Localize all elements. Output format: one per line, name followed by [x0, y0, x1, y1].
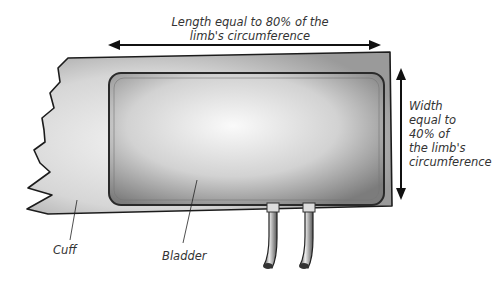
width-label-line5: circumference — [409, 155, 501, 169]
bladder-shape — [109, 73, 384, 205]
length-label-line1: Length equal to 80% of the — [120, 15, 380, 29]
width-arrow — [396, 68, 406, 200]
width-label: Width equal to 40% of the limb's circumf… — [409, 99, 501, 169]
width-label-line1: Width — [409, 99, 501, 113]
length-label: Length equal to 80% of the limb's circum… — [120, 15, 380, 43]
width-label-line3: 40% of — [409, 127, 501, 141]
bladder-label: Bladder — [162, 249, 207, 263]
width-label-line4: the limb's — [409, 141, 501, 155]
tubes — [263, 210, 313, 269]
cuff-label: Cuff — [53, 243, 77, 257]
width-label-line2: equal to — [409, 113, 501, 127]
length-label-line2: limb's circumference — [120, 29, 380, 43]
